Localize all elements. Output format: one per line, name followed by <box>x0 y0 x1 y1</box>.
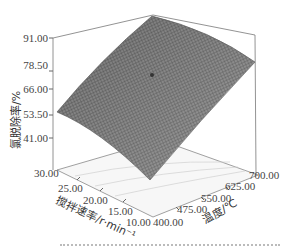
x-tick-label: 625.00 <box>225 180 256 192</box>
y-tick-label: 20.00 <box>83 194 108 206</box>
x-tick-label: 400.00 <box>153 216 184 228</box>
y-tick-label: 25.00 <box>58 182 83 194</box>
x-tick-label: 700.00 <box>249 169 280 181</box>
z-tick-label: 78.50 <box>23 59 48 71</box>
z-tick-label: 66.00 <box>23 83 48 95</box>
z-tick-label: 41.00 <box>23 132 48 144</box>
y-tick-label: 30.00 <box>34 167 59 179</box>
figure-caption-cutoff <box>60 244 280 249</box>
z-axis: 91.00 78.50 66.00 53.50 41.00 氯脱除率/% <box>9 32 53 149</box>
design-point-marker <box>150 73 154 77</box>
response-surface-chart: 91.00 78.50 66.00 53.50 41.00 氯脱除率/% 30.… <box>0 0 285 249</box>
z-tick-label: 91.00 <box>23 32 48 44</box>
z-axis-label: 氯脱除率/% <box>9 91 23 149</box>
response-surface <box>57 16 255 180</box>
z-tick-label: 53.50 <box>23 108 48 120</box>
